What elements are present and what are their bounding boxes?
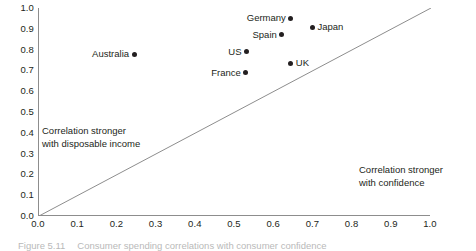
y-tick-label: 0.3 — [0, 149, 34, 159]
data-point-label: US — [228, 47, 241, 57]
x-tick-label: 0.9 — [373, 219, 409, 229]
annotation-left-line2: with disposable income — [42, 138, 140, 151]
x-tick-label: 0.3 — [138, 219, 174, 229]
y-tick-label: 0.5 — [0, 107, 34, 117]
y-tick-label: 0.4 — [0, 128, 34, 138]
y-tick-label: 0.2 — [0, 169, 34, 179]
figure-caption-text: Consumer spending correlations with cons… — [77, 240, 326, 251]
data-point-label: UK — [296, 58, 309, 68]
x-tick-label: 0.2 — [98, 219, 134, 229]
annotation-right-line1: Correlation stronger — [359, 164, 443, 177]
data-point-label: Japan — [317, 22, 343, 32]
x-tick-label: 0.6 — [255, 219, 291, 229]
y-tick-label: 0.8 — [0, 45, 34, 55]
annotation-left-line1: Correlation stronger — [42, 125, 140, 138]
annotation-right: Correlation stronger with confidence — [359, 164, 443, 189]
x-tick-label: 0.0 — [20, 219, 56, 229]
y-tick-label: 0.1 — [0, 190, 34, 200]
data-point-label: Germany — [247, 13, 286, 23]
data-point-label: Spain — [253, 30, 277, 40]
y-tick-label: 0.9 — [0, 24, 34, 34]
y-axis: 0.00.10.20.30.40.50.60.70.80.91.0 — [0, 0, 34, 250]
y-tick-label: 1.0 — [0, 3, 34, 13]
data-point-label: France — [211, 68, 241, 78]
x-axis: 0.00.10.20.30.40.50.60.70.80.91.0 — [0, 219, 476, 233]
figure-caption: Figure 5.11Consumer spending correlation… — [18, 240, 476, 251]
y-tick-label: 0.6 — [0, 86, 34, 96]
data-point-label: Australia — [92, 49, 129, 59]
annotation-left: Correlation stronger with disposable inc… — [42, 125, 140, 150]
annotation-right-line2: with confidence — [359, 177, 443, 190]
x-tick-label: 0.8 — [334, 219, 370, 229]
data-point-marker — [132, 52, 137, 57]
x-tick-label: 0.5 — [216, 219, 252, 229]
data-point-marker — [310, 25, 315, 30]
x-tick-label: 1.0 — [412, 219, 448, 229]
data-point-marker — [288, 61, 293, 66]
y-tick-label: 0.7 — [0, 65, 34, 75]
figure-caption-number: Figure 5.11 — [18, 240, 65, 251]
x-tick-label: 0.4 — [177, 219, 213, 229]
x-tick-label: 0.1 — [59, 219, 95, 229]
x-tick-label: 0.7 — [294, 219, 330, 229]
